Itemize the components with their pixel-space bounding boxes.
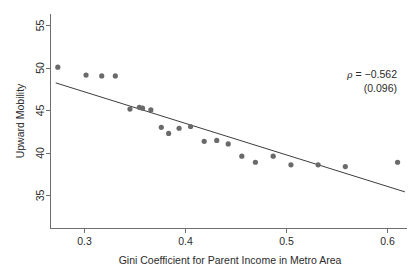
scatter-point [316,162,321,167]
scatter-point [176,126,181,131]
y-tick-label-45: 45 [34,105,46,117]
scatter-point [343,164,348,169]
standard-error-annotation: (0.096) [364,82,397,94]
y-tick-label-50: 50 [34,62,46,74]
scatter-point [113,73,118,78]
x-tick-label-0.4: 0.4 [178,235,193,247]
scatter-point [395,160,400,165]
scatter-plot-figure: 55 50 45 40 35 Upward Mobility 0.3 0.4 0… [0,0,413,275]
scatter-point [159,125,164,130]
plot-canvas: 55 50 45 40 35 Upward Mobility 0.3 0.4 0… [0,0,413,275]
scatter-point [271,154,276,159]
statistics-annotation: ρ = −0.562 (0.096) [346,68,397,94]
scatter-point [188,124,193,129]
x-tick-label-0.5: 0.5 [279,235,294,247]
x-axis-tick-labels: 0.3 0.4 0.5 0.6 [77,235,395,247]
y-tick-label-55: 55 [34,20,46,32]
scatter-point [83,72,88,77]
scatter-point [239,154,244,159]
x-axis-title: Gini Coefficient for Parent Income in Me… [119,254,342,266]
scatter-point [140,106,145,111]
x-tick-label-0.6: 0.6 [380,235,395,247]
scatter-point [288,162,293,167]
scatter-point [202,139,207,144]
y-axis-ticks [46,26,51,196]
scatter-point [214,138,219,143]
scatter-point [148,107,153,112]
rho-value: = −0.562 [353,68,398,80]
correlation-annotation: ρ = −0.562 [346,68,397,80]
scatter-point [127,106,132,111]
scatter-point [253,160,258,165]
regression-fit-line [56,83,405,192]
scatter-point [166,131,171,136]
y-axis-title: Upward Mobility [14,83,26,158]
x-tick-label-0.3: 0.3 [77,235,92,247]
y-tick-label-40: 40 [34,147,46,159]
y-tick-label-35: 35 [34,190,46,202]
x-axis-ticks [85,229,388,234]
scatter-point [226,141,231,146]
scatter-points-layer [55,65,400,170]
scatter-point [55,65,60,70]
scatter-point [99,73,104,78]
y-axis-tick-labels: 55 50 45 40 35 [34,20,46,202]
